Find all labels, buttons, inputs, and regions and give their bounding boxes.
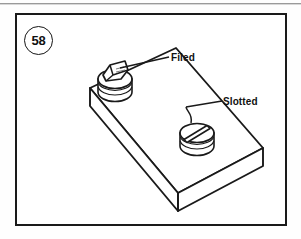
figure-number-badge: 58 — [24, 26, 53, 55]
technical-illustration — [15, 13, 287, 226]
label-filed: Filed — [171, 52, 195, 63]
page-top-rule-shadow — [0, 4, 301, 5]
page-canvas: 58 Filed Slotted — [0, 0, 301, 239]
slotted-plug — [180, 124, 214, 156]
figure-number-text: 58 — [32, 34, 46, 47]
label-slotted: Slotted — [223, 96, 258, 107]
